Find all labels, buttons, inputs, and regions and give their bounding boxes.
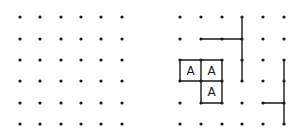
grid-dot [59, 37, 62, 40]
grid-dot [120, 15, 123, 18]
grid-dot [99, 37, 102, 40]
grid-dot [99, 122, 102, 125]
grid-dot [220, 122, 223, 125]
grid-dot [18, 122, 21, 125]
grid-dot [18, 37, 21, 40]
grid-dot [220, 79, 223, 82]
grid-dot [38, 37, 41, 40]
grid-dot [99, 15, 102, 18]
grid-dot [99, 58, 102, 61]
grid-dot [240, 58, 243, 61]
grid-dot [120, 37, 123, 40]
grid-dot [178, 58, 181, 61]
grid-dot [178, 79, 181, 82]
grid-dot [59, 15, 62, 18]
grid-dot [79, 101, 82, 104]
grid-dot [199, 79, 202, 82]
grid-dot [261, 15, 264, 18]
grid-dot [240, 122, 243, 125]
grid-dot [199, 101, 202, 104]
grid-dot [18, 15, 21, 18]
grid-dot [240, 15, 243, 18]
grid-dot [79, 15, 82, 18]
grid-dot [59, 58, 62, 61]
grid-dot [178, 37, 181, 40]
grid-dot [178, 15, 181, 18]
grid-dot [79, 122, 82, 125]
grid-dot [99, 101, 102, 104]
grid-dot [178, 101, 181, 104]
grid-dot [282, 122, 285, 125]
grid-dot [120, 101, 123, 104]
grid-dot [178, 122, 181, 125]
grid-dot [18, 79, 21, 82]
dots-and-boxes-diagram: AAA [0, 0, 299, 138]
grid-dot [18, 101, 21, 104]
left-dot-grid [18, 15, 123, 125]
grid-dot [282, 15, 285, 18]
grid-dot [199, 37, 202, 40]
grid-dot [220, 37, 223, 40]
grid-dot [220, 58, 223, 61]
grid-dot [199, 15, 202, 18]
right-grid-lines [180, 17, 284, 124]
grid-dot [38, 79, 41, 82]
grid-dot [282, 58, 285, 61]
grid-dot [240, 101, 243, 104]
box-owner-label: A [186, 64, 195, 78]
grid-dot [220, 15, 223, 18]
grid-dot [79, 79, 82, 82]
grid-dot [38, 58, 41, 61]
grid-dot [38, 101, 41, 104]
grid-dot [59, 122, 62, 125]
grid-dot [261, 101, 264, 104]
box-owner-label: A [207, 64, 216, 78]
grid-dot [18, 58, 21, 61]
grid-dot [120, 58, 123, 61]
grid-dot [79, 37, 82, 40]
grid-dot [220, 101, 223, 104]
grid-dot [282, 79, 285, 82]
grid-dot [199, 122, 202, 125]
box-owner-label: A [207, 85, 216, 99]
grid-dot [79, 58, 82, 61]
grid-dot [240, 37, 243, 40]
grid-dot [261, 122, 264, 125]
grid-dot [282, 101, 285, 104]
grid-dot [282, 37, 285, 40]
grid-dot [261, 58, 264, 61]
grid-dot [99, 79, 102, 82]
grid-dot [38, 122, 41, 125]
grid-dot [120, 79, 123, 82]
grid-dot [120, 122, 123, 125]
grid-dot [59, 79, 62, 82]
grid-dot [261, 37, 264, 40]
grid-dot [240, 79, 243, 82]
grid-dot [38, 15, 41, 18]
grid-dot [261, 79, 264, 82]
grid-dot [199, 58, 202, 61]
grid-dot [59, 101, 62, 104]
